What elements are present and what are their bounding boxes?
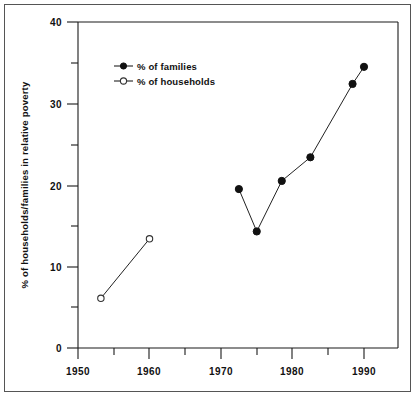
y-tick-label-40: 40 xyxy=(50,17,62,28)
series-families xyxy=(235,63,367,235)
chart-container: 40 30 20 10 0 1950 1960 1970 1980 1990 xyxy=(0,0,415,396)
y-axis-ticks xyxy=(67,22,78,348)
legend-marker-filled-circle-icon xyxy=(120,63,126,69)
poverty-line-chart: 40 30 20 10 0 1950 1960 1970 1980 1990 xyxy=(0,0,415,396)
chart-legend: % of families % of households xyxy=(114,61,215,87)
y-tick-label-10: 10 xyxy=(50,262,62,273)
series-polyline xyxy=(239,67,364,232)
x-tick-label-1950: 1950 xyxy=(66,366,90,377)
legend-item-families: % of families xyxy=(114,61,197,72)
data-point-1972.5-19.5 xyxy=(235,185,242,192)
data-point-1975-14.3 xyxy=(253,228,260,235)
data-point-1988.4-32.4 xyxy=(349,80,356,87)
data-point-1953.2-6.1 xyxy=(98,295,104,301)
x-tick-label-1970: 1970 xyxy=(209,366,233,377)
plot-axes xyxy=(78,22,398,348)
data-point-1978.5-20.5 xyxy=(278,177,285,184)
data-point-1960-13.4 xyxy=(146,236,152,242)
data-point-1982.5-23.4 xyxy=(307,154,314,161)
page-frame xyxy=(5,5,411,392)
x-tick-label-1960: 1960 xyxy=(137,366,161,377)
series-polyline xyxy=(101,239,150,299)
series-layer xyxy=(98,63,368,301)
y-axis-title: % of households/families in relative pov… xyxy=(19,81,30,288)
y-tick-label-0: 0 xyxy=(56,343,62,354)
x-axis-ticks xyxy=(78,348,364,359)
legend-label-families: % of families xyxy=(137,61,197,72)
y-tick-label-30: 30 xyxy=(50,99,62,110)
legend-item-households: % of households xyxy=(114,76,215,87)
y-tick-label-20: 20 xyxy=(50,181,62,192)
x-tick-label-1980: 1980 xyxy=(280,366,304,377)
legend-label-households: % of households xyxy=(137,76,215,87)
y-axis-tick-labels: 40 30 20 10 0 xyxy=(50,17,62,354)
data-point-1990-34.5 xyxy=(360,63,367,70)
legend-marker-open-circle-icon xyxy=(120,78,126,84)
series-households xyxy=(98,236,153,302)
x-tick-label-1990: 1990 xyxy=(352,366,376,377)
x-axis-tick-labels: 1950 1960 1970 1980 1990 xyxy=(66,366,376,377)
